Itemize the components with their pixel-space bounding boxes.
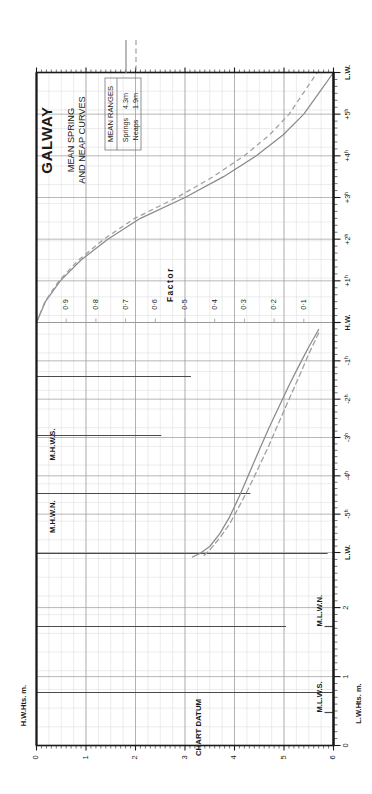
tidal-curve-page: 0123456H.W.Hts. m.012L.W.Hts. m.L.W.+5ʰ+… [0,0,372,794]
time-tick-lower-3: -3ʰ [343,433,352,443]
factor-tick-0: 0·9 [61,299,70,310]
hw-height-tick-4: 4 [229,755,238,759]
legend-value-springs: 4.3m [121,93,130,109]
factor-tick-4: 0·5 [180,299,189,310]
chart-title: GALWAY [38,106,55,173]
factor-tick-1: 0·8 [91,299,100,310]
time-tick-lower-5: -5ʰ [343,509,352,519]
time-tick-lower-1: -1ʰ [343,356,352,366]
legend-label-springs: Springs [121,117,130,142]
time-tick-3: +3ʰ [343,192,352,203]
time-tick-lower-2: -2ʰ [343,394,352,404]
datum-marker-MHWS: M.H.W.S. [48,429,57,461]
hw-height-tick-2: 2 [130,755,139,759]
hw-height-tick-1: 1 [81,755,90,759]
datum-marker-MLWS: M.L.W.S. [315,681,324,712]
hw-height-tick-6: 6 [328,755,337,759]
hw-height-tick-5: 5 [279,755,288,759]
factor-tick-8: 0·1 [299,299,308,310]
time-tick-2: +2ʰ [343,233,352,244]
time-tick-1: +1ʰ [343,275,352,286]
time-tick-LW: L.W. [343,65,352,80]
hw-height-tick-0: 0 [31,755,40,759]
factor-tick-3: 0·6 [150,299,159,310]
title-block: GALWAYMEAN SPRINGAND NEAP CURVESMEAN RAN… [38,40,141,184]
legend-value-neaps: 1.9m [131,93,140,109]
lw-height-tick-1: 1 [341,674,350,678]
factor-axis-title: Factor [165,267,175,302]
hw-height-tick-3: 3 [180,755,189,759]
factor-tick-6: 0·3 [239,299,248,310]
datum-marker-MHWN: M.H.W.N. [48,501,57,533]
lw-height-tick-2: 2 [341,606,350,610]
lw-height-tick-0: 0 [341,743,350,747]
legend-header: MEAN RANGES [106,86,115,142]
factor-tick-2: 0·7 [121,299,130,310]
time-tick-lower-4: -4ʰ [343,471,352,481]
chart-datum-label: CHART DATUM [194,699,203,756]
chart-subtitle-line2: AND NEAP CURVES [77,96,87,183]
right-axis-title: L.W.Hts. m. [354,683,363,723]
legend-label-neaps: Neaps [131,119,140,140]
chart-subtitle-line1: MEAN SPRING [66,108,76,172]
time-tick-4: +4ʰ [343,150,352,161]
time-tick-HW: H.W. [343,314,352,330]
left-axis-title: H.W.Hts. m. [19,685,28,726]
factor-tick-5: 0·4 [210,299,219,310]
time-tick-lower-LW: L.W. [343,545,352,560]
time-tick-5: +5ʰ [343,108,352,119]
datum-marker-MLWN: M.L.W.N. [315,595,324,627]
factor-tick-7: 0·2 [269,299,278,310]
tidal-curve-chart: 0123456H.W.Hts. m.012L.W.Hts. m.L.W.+5ʰ+… [0,0,372,794]
